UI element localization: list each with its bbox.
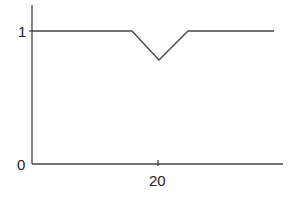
x-tick-label-20: 20 bbox=[149, 172, 166, 189]
line-chart: 1 0 20 bbox=[0, 0, 297, 197]
y-tick-label-1: 1 bbox=[18, 23, 26, 40]
data-line bbox=[32, 31, 274, 60]
y-tick-label-0: 0 bbox=[17, 156, 25, 173]
